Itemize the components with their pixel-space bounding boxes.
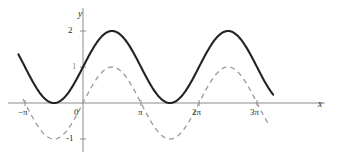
y-tick-label-two: 2 bbox=[68, 26, 73, 35]
y-tick-label-one: 1 bbox=[72, 62, 77, 71]
solid-sine-curve bbox=[18, 31, 273, 103]
x-tick-label-zero: 0 bbox=[74, 108, 79, 117]
x-tick-label-three-pi: 3π bbox=[250, 108, 259, 117]
function-graph-figure: y x −π 0 π 2π 3π 2 1 -1 bbox=[0, 0, 339, 158]
x-tick-label-two-pi: 2π bbox=[192, 108, 201, 117]
axes-group bbox=[8, 8, 325, 152]
y-axis-label: y bbox=[78, 10, 82, 20]
plot-canvas bbox=[0, 0, 339, 158]
x-tick-label-pi: π bbox=[138, 108, 143, 117]
y-tick-label-neg-one: -1 bbox=[66, 134, 74, 143]
x-tick-label-neg-pi: −π bbox=[18, 108, 28, 117]
x-axis-label: x bbox=[318, 100, 322, 110]
